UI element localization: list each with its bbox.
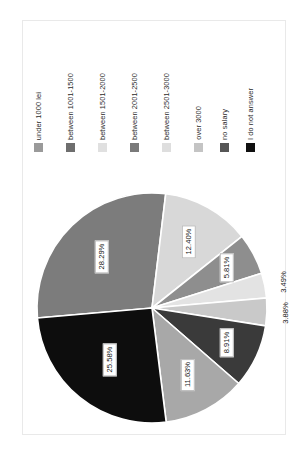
legend-swatch-icon: [246, 143, 255, 152]
legend-item-3[interactable]: between 2001-2500: [130, 73, 139, 152]
chart-canvas: under 1000 leibetween 1001-1500between 1…: [0, 0, 308, 462]
chart-legend: under 1000 leibetween 1001-1500between 1…: [24, 22, 284, 152]
legend-swatch-icon: [194, 143, 203, 152]
pie-slice-label-2: 5.81%: [220, 254, 234, 283]
legend-swatch-icon: [34, 143, 43, 152]
legend-swatch-icon: [66, 143, 75, 152]
legend-item-0[interactable]: under 1000 lei: [34, 92, 43, 152]
pie-slice-label-4: 3.88%: [283, 302, 291, 324]
pie-chart: 28.29%12.40%5.81%3.49%3.88%8.91%11.63%25…: [22, 168, 286, 433]
legend-item-5[interactable]: over 3000: [194, 106, 203, 152]
legend-item-label: between 1501-2000: [99, 73, 106, 140]
legend-item-label: between 1001-1500: [67, 73, 74, 140]
pie-slice-label-7: 25.58%: [103, 343, 117, 376]
legend-item-4[interactable]: between 2501-3000: [162, 73, 171, 152]
legend-item-label: I do not answer: [247, 88, 254, 140]
pie-slice-7[interactable]: [37, 308, 166, 423]
legend-item-label: under 1000 lei: [35, 92, 42, 140]
legend-swatch-icon: [130, 143, 139, 152]
pie-svg: [22, 168, 286, 433]
legend-item-6[interactable]: no salary: [220, 109, 229, 152]
legend-item-label: over 3000: [195, 106, 202, 140]
legend-item-label: no salary: [221, 109, 228, 140]
pie-slice-label-3: 3.49%: [280, 271, 288, 293]
legend-item-1[interactable]: between 1001-1500: [66, 73, 75, 152]
pie-slice-label-1: 12.40%: [182, 225, 196, 258]
legend-item-label: between 2001-2500: [131, 73, 138, 140]
pie-slice-label-0: 28.29%: [96, 240, 110, 273]
legend-item-7[interactable]: I do not answer: [246, 88, 255, 152]
legend-swatch-icon: [220, 143, 229, 152]
legend-item-2[interactable]: between 1501-2000: [98, 73, 107, 152]
legend-swatch-icon: [162, 143, 171, 152]
pie-slice-label-6: 11.63%: [181, 359, 195, 391]
pie-slice-label-5: 8.91%: [220, 329, 234, 358]
legend-item-label: between 2501-3000: [163, 73, 170, 140]
legend-swatch-icon: [98, 143, 107, 152]
pie-slices: [37, 193, 267, 423]
